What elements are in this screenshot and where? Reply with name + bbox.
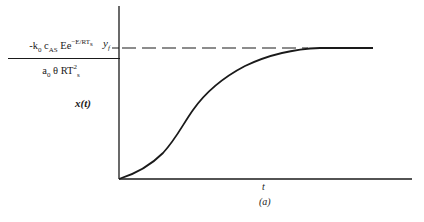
yf-symbol: yf (103, 37, 110, 52)
x-of-t-curve (119, 48, 373, 179)
asymptote-denominator: a0 θ RT2s (8, 61, 114, 81)
x-axis-label: t (262, 181, 265, 192)
fraction-bar (8, 58, 120, 59)
asymptote-expression: -k0 cAS Ee−E/RTs a0 θ RT2s (8, 36, 114, 80)
figure: -k0 cAS Ee−E/RTs a0 θ RT2s yf x(t) t (a) (0, 0, 424, 222)
plot-area (0, 0, 424, 222)
asymptote-numerator: -k0 cAS Ee−E/RTs (8, 36, 114, 57)
figure-caption: (a) (259, 196, 271, 207)
y-axis-label: x(t) (75, 97, 91, 109)
